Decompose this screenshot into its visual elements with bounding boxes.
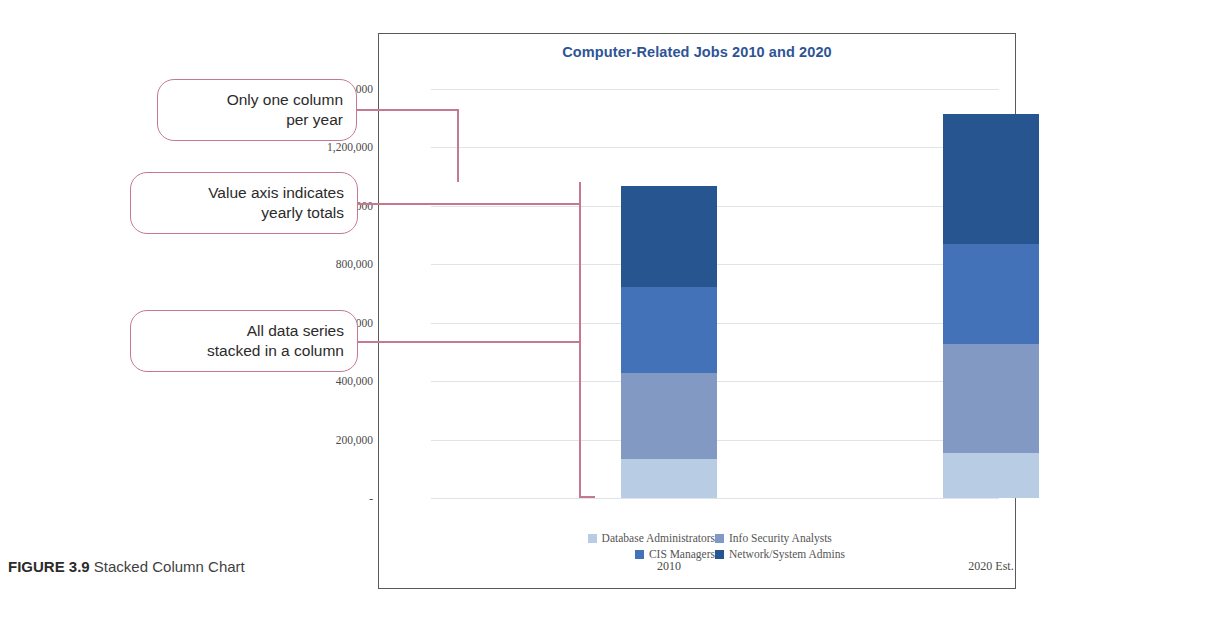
legend-swatch-icon (715, 534, 724, 543)
legend-item[interactable]: Network/System Admins (715, 548, 999, 560)
legend-item[interactable]: Database Administrators (431, 532, 715, 544)
value-axis-tick-label: - (287, 492, 373, 504)
leader-line-callout-3 (358, 341, 580, 343)
gridline (431, 89, 999, 90)
legend-swatch-icon (588, 534, 597, 543)
leader-line-callout-2-vertical (579, 182, 581, 498)
gridline (431, 147, 999, 148)
value-axis-tick-label: 800,000 (287, 258, 373, 270)
legend-item[interactable]: CIS Managers (431, 548, 715, 560)
chart-legend: Database AdministratorsInfo Security Ana… (431, 532, 999, 560)
leader-line-callout-1-vertical (457, 109, 459, 182)
category-axis-label: 2020 Est. (921, 559, 1061, 574)
category-axis-label: 2010 (599, 559, 739, 574)
bar-segment[interactable] (943, 344, 1039, 453)
callout-line-1: Only one column (171, 90, 343, 110)
chart-title: Computer-Related Jobs 2010 and 2020 (379, 44, 1015, 60)
bar-segment[interactable] (621, 459, 717, 498)
chart-panel: Computer-Related Jobs 2010 and 2020 -200… (378, 33, 1016, 589)
bar-column-2010[interactable] (621, 186, 717, 498)
legend-swatch-icon (715, 550, 724, 559)
figure-caption: FIGURE 3.9 Stacked Column Chart (8, 556, 348, 577)
bar-segment[interactable] (621, 186, 717, 287)
plot-area: 20102020 Est. (431, 89, 999, 498)
bar-column-2020-est[interactable] (943, 114, 1039, 498)
callout-line-2: per year (171, 110, 343, 130)
value-axis: -200,000400,000600,000800,0001,000,0001,… (287, 89, 373, 498)
leader-line-callout-2-foot (579, 496, 595, 498)
value-axis-tick-label: 200,000 (287, 434, 373, 446)
legend-label: CIS Managers (649, 548, 715, 560)
value-axis-tick-label: 1,200,000 (287, 141, 373, 153)
bar-segment[interactable] (943, 453, 1039, 498)
value-axis-tick-label: 400,000 (287, 375, 373, 387)
figure-caption-text: Stacked Column Chart (90, 558, 245, 575)
callout-value-axis-yearly-totals: Value axis indicates yearly totals (130, 172, 358, 234)
bar-segment[interactable] (943, 244, 1039, 344)
legend-swatch-icon (635, 550, 644, 559)
legend-label: Database Administrators (602, 532, 715, 544)
bar-segment[interactable] (943, 114, 1039, 245)
legend-label: Info Security Analysts (729, 532, 832, 544)
callout-line-2: yearly totals (144, 203, 344, 223)
callout-only-one-column-per-year: Only one column per year (157, 79, 357, 141)
leader-line-callout-2 (358, 203, 580, 205)
leader-line-callout-1 (357, 109, 458, 111)
callout-line-1: All data series (144, 321, 344, 341)
figure-number: FIGURE 3.9 (8, 558, 90, 575)
callout-line-1: Value axis indicates (144, 183, 344, 203)
legend-label: Network/System Admins (729, 548, 845, 560)
bar-segment[interactable] (621, 287, 717, 373)
gridline (431, 498, 999, 499)
legend-item[interactable]: Info Security Analysts (715, 532, 999, 544)
callout-all-data-series-stacked: All data series stacked in a column (130, 310, 358, 372)
callout-line-2: stacked in a column (144, 341, 344, 361)
bar-segment[interactable] (621, 373, 717, 459)
